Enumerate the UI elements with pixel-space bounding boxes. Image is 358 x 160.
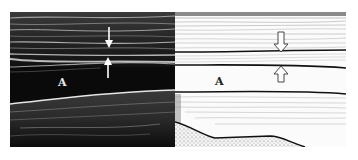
schematic-panel: A (175, 12, 346, 147)
schematic-drawing (175, 12, 346, 147)
region-label-a: A (215, 75, 224, 88)
ultrasound-panel: A (10, 12, 175, 147)
region-label-a: A (58, 76, 67, 89)
ultrasound-image (10, 12, 175, 147)
